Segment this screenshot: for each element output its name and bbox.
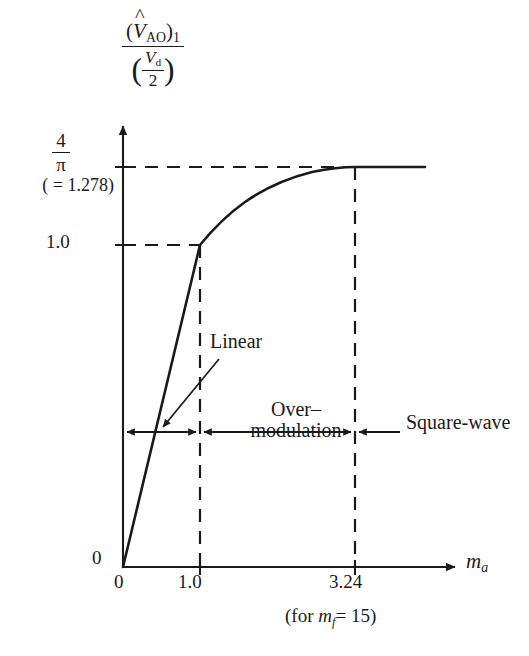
carrier-ratio-prefix: (for xyxy=(285,605,318,626)
v-hat-symbol: V xyxy=(133,19,146,43)
tick-marks xyxy=(115,167,355,575)
carrier-ratio-suffix: = 15) xyxy=(335,605,376,626)
annotation-overmodulation-line1: Over– xyxy=(271,398,321,420)
annotation-square-wave: Square-wave xyxy=(406,412,510,433)
x-tick-label-one: 1.0 xyxy=(178,572,202,592)
y-axis-origin-label: 0 xyxy=(92,548,102,568)
four-over-pi-fraction: 4 π xyxy=(22,131,114,175)
four-over-pi-decimal: ( = 1.278) xyxy=(22,176,114,195)
y-axis-label: (VAO)1 (Vd2) xyxy=(78,20,228,90)
vd-over-two: Vd2 xyxy=(142,49,164,89)
y-tick-label-one: 1.0 xyxy=(46,232,70,252)
figure-container: (VAO)1 (Vd2) 4 π ( = 1.278) 1.0 0 0 1.0 … xyxy=(0,0,529,656)
four-over-pi-numerator: 4 xyxy=(52,131,70,153)
x-axis-label: ma xyxy=(466,550,488,575)
curve-vao-vs-ma xyxy=(123,167,425,567)
vd-subscript: d xyxy=(155,57,161,69)
annotation-overmodulation-line2: modulation xyxy=(250,419,341,441)
vd-denominator: 2 xyxy=(142,71,164,90)
v-hat-subscript: AO xyxy=(146,30,166,45)
x-tick-label-three-two-four: 3.24 xyxy=(329,572,362,592)
y-tick-label-four-over-pi: 4 π ( = 1.278) xyxy=(22,131,114,195)
chart-canvas xyxy=(0,0,529,656)
carrier-ratio-var: m xyxy=(318,605,332,626)
x-axis-label-sub: a xyxy=(481,560,488,575)
axis-lines xyxy=(123,126,455,567)
open-paren: ( xyxy=(131,53,142,86)
data-curve xyxy=(123,167,425,567)
close-paren: ) xyxy=(164,53,175,86)
carrier-ratio-note: (for mf= 15) xyxy=(285,606,376,629)
x-axis-label-var: m xyxy=(466,549,481,573)
y-axis-label-fraction: (VAO)1 (Vd2) xyxy=(122,20,184,90)
y-axis-label-numerator: (VAO)1 xyxy=(122,20,184,47)
annotation-linear: Linear xyxy=(210,331,262,352)
vd-numerator: Vd xyxy=(142,49,164,70)
reference-lines xyxy=(123,167,357,567)
y-axis-label-denominator: (Vd2) xyxy=(122,47,184,89)
v-hat-order: 1 xyxy=(173,30,180,45)
four-over-pi-denominator: π xyxy=(52,153,70,175)
x-tick-label-zero: 0 xyxy=(114,572,124,592)
annotation-overmodulation: Over– modulation xyxy=(228,399,364,441)
four-over-pi-stack: 4 π xyxy=(52,131,70,175)
